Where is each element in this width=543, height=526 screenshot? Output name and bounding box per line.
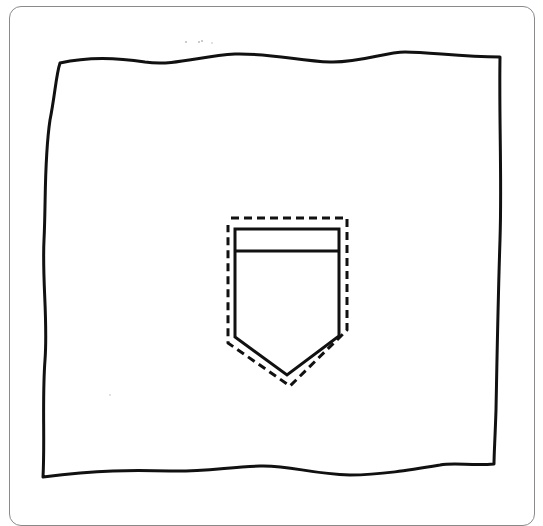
fabric-outline: [43, 52, 501, 477]
seam-allowance-dashed-outline: [228, 218, 347, 386]
scan-specks: [109, 40, 213, 396]
